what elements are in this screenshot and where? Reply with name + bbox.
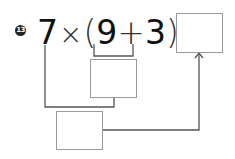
product-result-box[interactable] <box>56 111 103 150</box>
final-answer-box[interactable] <box>176 13 223 53</box>
sum-result-box[interactable] <box>90 59 137 98</box>
